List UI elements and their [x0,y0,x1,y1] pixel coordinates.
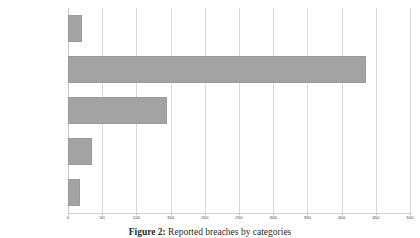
bar [68,138,92,165]
tick-label-450: 450 [372,215,379,221]
figure-caption: Figure 2: Reported breaches by categorie… [0,226,420,238]
bar-row: Loss [68,172,410,213]
tick-label-300: 300 [270,215,277,221]
bar-row: Hacking/ Vulnerability Exploit [68,49,410,90]
tick-label-250: 250 [235,215,242,221]
tick-label-400: 400 [338,215,345,221]
tick-label-350: 350 [304,215,311,221]
bar-row: Human Mistakes [68,8,410,49]
plot-area: Human MistakesHacking/ Vulnerability Exp… [68,8,410,213]
bar-row: Theft [68,131,410,172]
tick-label-100: 100 [133,215,140,221]
caption-text: Reported breaches by categories [168,227,291,237]
bar [68,15,82,42]
tick-label-200: 200 [201,215,208,221]
bar [68,56,366,83]
bar-row: Access Violation [68,90,410,131]
gridline-500 [410,8,411,213]
tick-label-0: 0 [67,215,69,221]
figure-container: Human MistakesHacking/ Vulnerability Exp… [0,0,420,238]
bar [68,179,80,206]
tick-label-500: 500 [406,215,413,221]
tick-label-50: 50 [100,215,105,221]
tick-label-150: 150 [167,215,174,221]
caption-label: Figure 2: [129,227,166,237]
bar [68,97,167,124]
